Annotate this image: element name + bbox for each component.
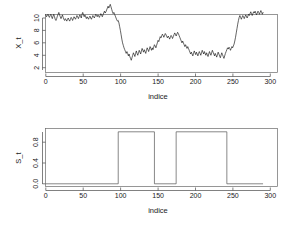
x-tick-label: 0 [44, 78, 48, 85]
y-axis-title-top: X_t [14, 36, 23, 48]
x-tick-label: 250 [227, 192, 239, 199]
x-tick-label: 50 [79, 192, 87, 199]
panel-st: 0.0 0.4 0.8 S_t 0 50 100 150 [0, 112, 295, 230]
y-tick-label: 0.8 [32, 137, 39, 147]
y-tick-labels-top: 2 4 6 8 10 [33, 14, 40, 70]
y-tick-label: 4 [33, 53, 40, 57]
x-tick-label: 0 [44, 192, 48, 199]
chart-st-svg: 0.0 0.4 0.8 S_t 0 50 100 150 [0, 112, 295, 230]
y-tick-label: 10 [33, 14, 40, 22]
y-axis-bottom [43, 132, 46, 184]
x-axis-title-bottom: indice [148, 206, 168, 215]
x-tick-label: 100 [115, 78, 127, 85]
y-tick-label: 0.4 [32, 158, 39, 168]
x-tick-label: 200 [190, 78, 202, 85]
y-axis-top [43, 18, 46, 70]
x-axis-top [46, 74, 270, 77]
x-axis-title-top: indice [148, 92, 168, 101]
x-tick-label: 300 [264, 78, 276, 85]
y-tick-labels-bottom: 0.0 0.4 0.8 [32, 137, 39, 188]
x-tick-label: 250 [227, 78, 239, 85]
x-tick-label: 150 [152, 192, 164, 199]
y-tick-label: 6 [33, 41, 40, 45]
x-tick-label: 150 [152, 78, 164, 85]
x-axis-bottom [46, 188, 270, 191]
figure-canvas: 2 4 6 8 10 X_t 0 50 10 [0, 0, 295, 230]
x-tick-label: 100 [115, 192, 127, 199]
x-tick-label: 300 [264, 192, 276, 199]
x-tick-label: 50 [79, 78, 87, 85]
x-tick-labels-top: 0 50 100 150 200 250 300 [44, 78, 276, 85]
x-tick-labels-bottom: 0 50 100 150 200 250 300 [44, 192, 276, 199]
panel-xt: 2 4 6 8 10 X_t 0 50 10 [0, 0, 295, 112]
y-tick-label: 0.0 [32, 179, 39, 189]
series-line-xt [46, 4, 263, 60]
y-axis-title-bottom: S_t [14, 151, 23, 163]
y-tick-label: 2 [33, 66, 40, 70]
plot-frame-top [46, 15, 278, 73]
series-step-st [46, 132, 263, 184]
plot-frame-bottom [46, 129, 278, 187]
x-tick-label: 200 [190, 192, 202, 199]
y-tick-label: 8 [33, 28, 40, 32]
chart-xt-svg: 2 4 6 8 10 X_t 0 50 10 [0, 0, 295, 112]
